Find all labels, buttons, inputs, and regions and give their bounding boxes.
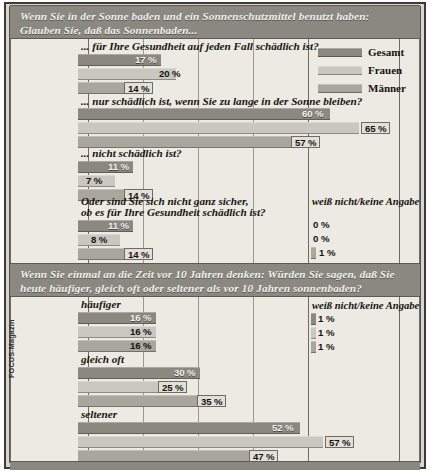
dont-know-value-maenner: 1 % bbox=[318, 340, 335, 353]
group-label: seltener bbox=[81, 409, 117, 420]
bar-value-frauen: 65 % bbox=[361, 122, 390, 134]
legend-swatch-icon bbox=[318, 66, 362, 75]
survey-chart: Wenn Sie in der Sonne baden und ein Sonn… bbox=[0, 0, 430, 475]
legend-label: Frauen bbox=[368, 63, 402, 78]
section-2-question-banner: Wenn Sie einmal an die Zeit vor 10 Jahre… bbox=[10, 263, 420, 297]
section-1-question-banner: Wenn Sie in der Sonne baden und ein Sonn… bbox=[10, 5, 420, 39]
legend-swatch-icon bbox=[318, 84, 362, 93]
dont-know-column-title-1: weiß nicht/keine Angabe bbox=[312, 196, 419, 207]
legend-item-frauen: Frauen bbox=[318, 63, 422, 78]
bar-value-gesamt: 52 % bbox=[272, 421, 293, 434]
legend-item-gesamt: Gesamt bbox=[318, 45, 422, 60]
group-label: gleich oft bbox=[81, 354, 124, 365]
dont-know-value-gesamt: 1 % bbox=[318, 312, 335, 325]
column-separator bbox=[399, 297, 400, 461]
group-label: ... für Ihre Gesundheit auf jeden Fall s… bbox=[81, 41, 319, 52]
bar-value-frauen: 8 % bbox=[91, 233, 107, 246]
dont-know-value-maenner: 1 % bbox=[319, 246, 336, 259]
dont-know-row: 1 % bbox=[311, 313, 391, 325]
group-label: häufiger bbox=[81, 299, 121, 310]
legend-swatch-icon bbox=[318, 48, 362, 57]
bar-value-maenner: 57 % bbox=[291, 136, 320, 148]
bottom-bar bbox=[10, 461, 420, 470]
dont-know-column-title-2: weiß nicht/keine Angabe bbox=[312, 300, 419, 311]
dont-know-bar-maenner bbox=[311, 341, 316, 353]
bar-gesamt bbox=[78, 422, 300, 434]
dont-know-row: 0 % bbox=[311, 219, 391, 231]
bar-value-frauen: 57 % bbox=[325, 436, 354, 448]
dont-know-row: 1 % bbox=[311, 327, 391, 339]
bar-frauen bbox=[78, 436, 323, 448]
dont-know-value-gesamt: 0 % bbox=[313, 218, 330, 231]
group-label: ... nur schädlich ist, wenn Sie zu lange… bbox=[81, 96, 362, 107]
bar-value-frauen: 7 % bbox=[86, 174, 102, 187]
dont-know-row: 1 % bbox=[311, 341, 391, 353]
bar-frauen bbox=[78, 122, 359, 134]
legend: Gesamt Frauen Männer bbox=[318, 45, 422, 99]
dont-know-bar-gesamt bbox=[311, 313, 316, 325]
bar-value-gesamt: 60 % bbox=[302, 107, 323, 120]
bar-value-gesamt: 17 % bbox=[135, 53, 156, 66]
bar-value-gesamt: 11 % bbox=[108, 160, 129, 173]
bar-value-maenner: 14 % bbox=[124, 82, 153, 94]
bar-value-frauen: 16 % bbox=[130, 325, 151, 338]
bar-value-frauen: 20 % bbox=[159, 67, 180, 80]
bar-value-gesamt: 11 % bbox=[108, 219, 129, 232]
column-separator bbox=[308, 39, 309, 263]
group-label: Oder sind Sie sich nicht ganz sicher, ob… bbox=[81, 196, 266, 219]
legend-label: Männer bbox=[368, 81, 406, 96]
dont-know-bar-frauen bbox=[311, 327, 316, 339]
gridline bbox=[198, 39, 199, 263]
legend-label: Gesamt bbox=[368, 45, 404, 60]
bar-value-gesamt: 16 % bbox=[130, 311, 151, 324]
bar-value-frauen: 25 % bbox=[158, 381, 187, 393]
bar-value-maenner: 35 % bbox=[197, 395, 226, 407]
legend-item-maenner: Männer bbox=[318, 81, 422, 96]
dont-know-value-frauen: 1 % bbox=[318, 326, 335, 339]
dont-know-value-frauen: 0 % bbox=[313, 232, 330, 245]
source-credit: FOCUS-Magazin bbox=[7, 298, 16, 378]
bar-value-gesamt: 30 % bbox=[174, 366, 195, 379]
bar-value-maenner: 14 % bbox=[124, 248, 153, 260]
bar-gesamt bbox=[78, 108, 330, 120]
dont-know-row: 0 % bbox=[311, 233, 391, 245]
group-label: ... nicht schädlich ist? bbox=[81, 148, 182, 159]
bar-value-maenner: 16 % bbox=[130, 339, 151, 352]
gridline bbox=[253, 39, 254, 263]
dont-know-row: 1 % bbox=[311, 247, 391, 259]
dont-know-bar-maenner bbox=[311, 247, 316, 259]
